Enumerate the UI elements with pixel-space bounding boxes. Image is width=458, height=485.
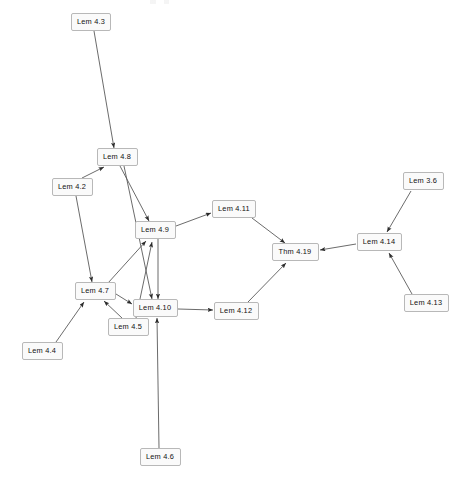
node-lem-4-6[interactable]: Lem 4.6	[140, 448, 181, 466]
edge-lem-3-6-to-lem-4-14	[387, 191, 411, 232]
edge-lem-4-8-to-lem-4-9	[120, 166, 149, 221]
node-label: Lem 4.2	[58, 183, 86, 190]
node-label: Lem 3.6	[409, 177, 437, 184]
edge-lem-4-12-to-thm-4-19	[248, 263, 286, 302]
node-label: Lem 4.7	[81, 287, 109, 294]
node-lem-4-2[interactable]: Lem 4.2	[52, 178, 93, 196]
node-lem-4-12[interactable]: Lem 4.12	[214, 302, 259, 320]
node-label: Lem 4.9	[141, 226, 169, 233]
node-lem-3-6[interactable]: Lem 3.6	[403, 172, 444, 190]
node-label: Lem 4.5	[114, 323, 142, 330]
node-lem-4-10[interactable]: Lem 4.10	[133, 299, 178, 317]
dependency-graph: Lem 4.3Lem 4.8Lem 4.2Lem 4.9Lem 4.11Lem …	[0, 0, 458, 485]
node-label: Lem 4.13	[410, 299, 442, 306]
node-label: Lem 4.14	[363, 238, 395, 245]
node-lem-4-4[interactable]: Lem 4.4	[22, 342, 63, 360]
node-label: Lem 4.3	[77, 18, 105, 25]
node-lem-4-5[interactable]: Lem 4.5	[108, 318, 149, 336]
edge-lem-4-13-to-lem-4-14	[389, 253, 412, 294]
edge-lem-4-3-to-lem-4-8	[94, 31, 114, 148]
edge-lem-4-2-to-lem-4-7	[76, 196, 92, 282]
edge-lem-4-5-to-lem-4-7	[104, 301, 122, 318]
edge-lem-4-10-to-lem-4-12	[178, 309, 213, 310]
node-label: Lem 4.11	[218, 205, 250, 212]
node-lem-4-14[interactable]: Lem 4.14	[357, 233, 402, 251]
node-thm-4-19[interactable]: Thm 4.19	[272, 243, 319, 261]
node-label: Thm 4.19	[279, 248, 312, 255]
node-label: Lem 4.10	[139, 304, 171, 311]
node-lem-4-8[interactable]: Lem 4.8	[97, 148, 138, 166]
edge-lem-4-7-to-lem-4-9	[108, 241, 146, 283]
node-lem-4-7[interactable]: Lem 4.7	[75, 282, 116, 300]
node-lem-4-11[interactable]: Lem 4.11	[212, 200, 256, 218]
edge-lem-4-14-to-thm-4-19	[320, 244, 356, 250]
top-edge-artifact	[150, 0, 310, 4]
node-label: Lem 4.8	[103, 153, 131, 160]
node-label: Lem 4.6	[146, 453, 174, 460]
edge-lem-4-7-to-lem-4-10	[116, 294, 132, 304]
edge-lem-4-9-to-lem-4-11	[176, 213, 211, 226]
node-lem-4-13[interactable]: Lem 4.13	[404, 294, 449, 312]
edge-lem-4-2-to-lem-4-8	[82, 167, 104, 178]
edge-lem-4-11-to-thm-4-19	[252, 218, 285, 243]
node-lem-4-9[interactable]: Lem 4.9	[135, 221, 176, 239]
edge-lem-4-4-to-lem-4-7	[56, 302, 84, 342]
edge-lem-4-6-to-lem-4-10	[157, 318, 159, 448]
node-label: Lem 4.4	[28, 347, 56, 354]
node-lem-4-3[interactable]: Lem 4.3	[71, 13, 111, 31]
node-label: Lem 4.12	[220, 307, 252, 314]
